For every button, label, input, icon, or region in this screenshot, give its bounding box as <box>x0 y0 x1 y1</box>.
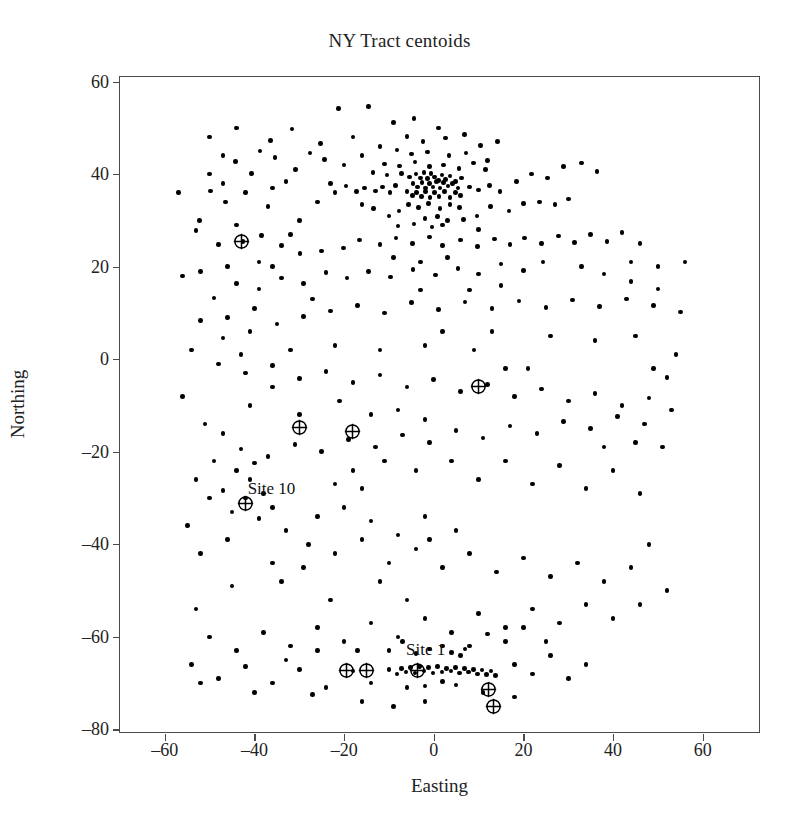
data-point <box>440 173 445 178</box>
data-point <box>207 635 212 640</box>
data-point <box>270 561 275 566</box>
data-point <box>561 419 566 424</box>
data-point <box>475 214 480 219</box>
data-point <box>410 241 415 246</box>
data-point <box>593 338 598 343</box>
data-point <box>467 288 472 293</box>
site-marker-site-d[interactable] <box>470 378 487 395</box>
data-point <box>212 459 217 464</box>
x-tick-label: 40 <box>604 740 622 761</box>
data-point <box>252 461 257 466</box>
data-point <box>584 662 589 667</box>
data-point <box>405 189 410 194</box>
data-point <box>478 143 483 148</box>
data-point <box>415 185 420 190</box>
data-point <box>423 417 428 422</box>
data-point <box>665 588 670 593</box>
data-point <box>476 611 481 616</box>
data-point <box>301 281 306 286</box>
data-point <box>438 206 443 211</box>
data-point <box>306 542 311 547</box>
site-marker-site-f[interactable] <box>358 662 375 679</box>
data-point <box>476 477 481 482</box>
data-point <box>544 305 549 310</box>
data-point <box>216 676 221 681</box>
site-marker-site-b[interactable] <box>291 419 308 436</box>
data-point <box>579 161 584 166</box>
data-point <box>393 183 398 188</box>
data-point <box>198 269 203 274</box>
data-point <box>279 276 284 281</box>
data-point <box>189 662 194 667</box>
data-point <box>553 202 558 207</box>
data-point <box>467 644 472 649</box>
data-point <box>373 189 378 194</box>
data-point <box>360 699 365 704</box>
data-point <box>561 164 566 169</box>
data-point <box>494 570 499 575</box>
data-point <box>378 373 383 378</box>
site-marker-site-e[interactable] <box>338 662 355 679</box>
data-point <box>207 135 212 140</box>
data-point <box>512 394 517 399</box>
site-marker-site-c[interactable] <box>344 423 361 440</box>
data-point <box>324 270 329 275</box>
data-point <box>409 300 414 305</box>
site-marker-site-10[interactable] <box>237 495 254 512</box>
data-point <box>342 639 347 644</box>
data-point <box>234 126 239 131</box>
data-point <box>337 399 342 404</box>
data-point <box>412 222 417 227</box>
site-marker-site-1[interactable] <box>409 662 426 679</box>
data-point <box>443 136 448 141</box>
data-point <box>248 477 253 482</box>
data-point <box>541 260 546 265</box>
data-point <box>315 625 320 630</box>
data-point <box>318 141 323 146</box>
data-point <box>423 616 428 621</box>
data-point <box>595 169 600 174</box>
data-point <box>241 239 246 244</box>
data-point <box>371 206 376 211</box>
data-point <box>257 516 262 521</box>
site-marker-site-a[interactable] <box>233 233 250 250</box>
site-marker-site-h[interactable] <box>485 698 502 715</box>
data-point <box>413 671 418 676</box>
data-point <box>427 647 432 652</box>
data-point <box>319 449 324 454</box>
y-tick <box>113 174 120 175</box>
data-point <box>438 186 443 191</box>
data-point <box>464 151 469 156</box>
data-point <box>434 179 439 184</box>
data-point <box>360 153 365 158</box>
data-point <box>373 445 378 450</box>
data-point <box>266 204 271 209</box>
data-point <box>249 171 254 176</box>
data-point <box>194 607 199 612</box>
data-point <box>611 616 616 621</box>
data-point <box>457 205 462 210</box>
data-point <box>407 175 412 180</box>
data-point <box>440 243 445 248</box>
data-point <box>417 664 422 669</box>
data-point <box>448 202 453 207</box>
data-point <box>366 104 371 109</box>
data-point <box>422 669 427 674</box>
data-point <box>230 584 235 589</box>
site-marker-site-g[interactable] <box>480 681 497 698</box>
y-axis-title: Northing <box>7 370 29 439</box>
data-point <box>557 621 562 626</box>
data-point <box>503 366 508 371</box>
data-point <box>406 202 411 207</box>
data-point <box>642 422 647 427</box>
data-point <box>225 537 230 542</box>
data-point <box>423 189 428 194</box>
data-point <box>416 205 421 210</box>
data-point <box>448 174 453 179</box>
data-point <box>391 120 396 125</box>
y-tick-label: 40 <box>91 164 109 185</box>
data-point <box>308 151 313 156</box>
data-point <box>275 322 280 327</box>
data-point <box>462 132 467 137</box>
data-point <box>458 193 463 198</box>
